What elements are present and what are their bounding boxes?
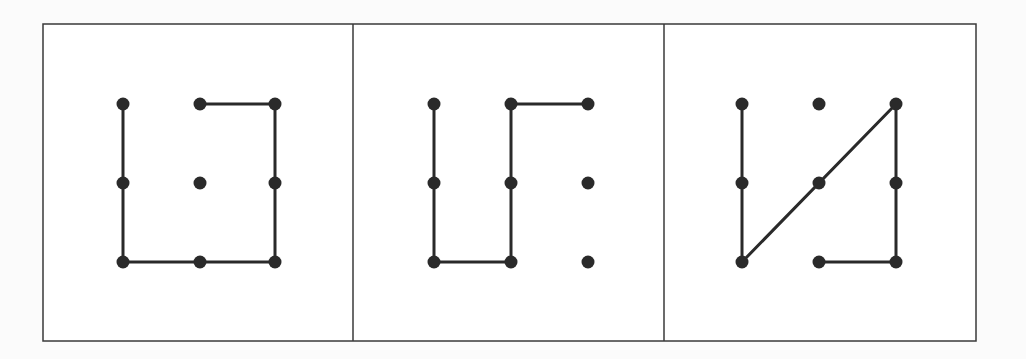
grid-dot xyxy=(736,98,749,111)
grid-dot xyxy=(505,177,518,190)
grid-dot xyxy=(428,256,441,269)
grid-dot xyxy=(194,98,207,111)
grid-dot xyxy=(194,177,207,190)
grid-dot xyxy=(736,256,749,269)
figure-stage xyxy=(0,0,1026,359)
grid-dot xyxy=(736,177,749,190)
grid-dot xyxy=(428,98,441,111)
grid-dot xyxy=(269,256,282,269)
grid-dot xyxy=(890,256,903,269)
grid-dot xyxy=(117,256,130,269)
grid-dot xyxy=(890,177,903,190)
grid-dot xyxy=(117,177,130,190)
grid-dot xyxy=(194,256,207,269)
grid-dot xyxy=(428,177,441,190)
grid-dot xyxy=(813,98,826,111)
dot-pattern-figure xyxy=(0,0,1026,359)
grid-dot xyxy=(582,256,595,269)
grid-dot xyxy=(813,177,826,190)
grid-dot xyxy=(813,256,826,269)
grid-dot xyxy=(505,98,518,111)
grid-dot xyxy=(582,177,595,190)
grid-dot xyxy=(890,98,903,111)
grid-dot xyxy=(269,98,282,111)
grid-dot xyxy=(117,98,130,111)
grid-dot xyxy=(269,177,282,190)
grid-dot xyxy=(582,98,595,111)
grid-dot xyxy=(505,256,518,269)
